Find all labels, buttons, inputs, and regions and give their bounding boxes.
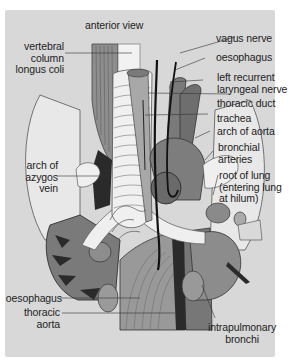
label-vagus-nerve: vagus nerve bbox=[216, 33, 272, 45]
label-arch-of-aorta: arch of aorta bbox=[217, 126, 275, 138]
label-oesophagus-right: oesophagus bbox=[216, 52, 272, 64]
label-thoracic-duct: thoracic duct bbox=[217, 98, 275, 110]
label-intrapulmonary-bronchi: intrapulmonary bronchi bbox=[208, 322, 276, 345]
lymph-node-shape bbox=[206, 203, 230, 223]
label-trachea: trachea bbox=[217, 113, 251, 125]
label-thoracic-aorta: thoracic aorta bbox=[24, 307, 60, 330]
label-vertebral-column-longus-coli: vertebral column longus coli bbox=[15, 41, 64, 76]
label-bronchial-arteries: bronchial arteries bbox=[218, 142, 260, 165]
label-arch-of-azygos-vein: arch of azygos vein bbox=[25, 160, 58, 195]
view-title: anterior view bbox=[85, 20, 143, 32]
label-oesophagus-left: oesophagus bbox=[6, 293, 62, 305]
lymph-node-shape bbox=[182, 271, 204, 301]
label-root-of-lung: root of lung (entering lung at hilum) bbox=[219, 170, 282, 205]
label-left-recurrent-laryngeal-nerve: left recurrent laryngeal nerve bbox=[217, 72, 287, 95]
